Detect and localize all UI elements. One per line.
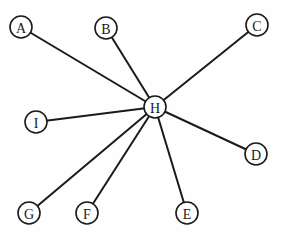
node-label: E	[183, 207, 192, 222]
edge-h-e	[155, 107, 187, 213]
edge-h-g	[29, 107, 155, 213]
node-label: D	[251, 148, 261, 163]
graph-diagram: ABCDEFGHI	[0, 0, 283, 241]
edges-layer	[21, 25, 257, 213]
edge-h-f	[87, 107, 155, 213]
node-b: B	[95, 17, 117, 39]
node-label: H	[150, 101, 160, 116]
graph-svg: ABCDEFGHI	[0, 0, 283, 241]
node-h: H	[144, 96, 166, 118]
node-d: D	[245, 143, 267, 165]
nodes-layer: ABCDEFGHI	[10, 14, 268, 224]
node-label: F	[83, 207, 91, 222]
node-label: I	[34, 116, 39, 131]
node-e: E	[176, 202, 198, 224]
node-c: C	[246, 14, 268, 36]
edge-h-i	[36, 107, 155, 122]
node-a: A	[10, 16, 32, 38]
node-label: A	[16, 21, 27, 36]
edge-h-d	[155, 107, 256, 154]
node-label: C	[252, 19, 261, 34]
node-label: G	[24, 207, 34, 222]
edge-h-c	[155, 25, 257, 107]
node-g: G	[18, 202, 40, 224]
node-label: B	[101, 22, 110, 37]
node-i: I	[25, 111, 47, 133]
edge-h-b	[106, 28, 155, 107]
edge-h-a	[21, 27, 155, 107]
node-f: F	[76, 202, 98, 224]
